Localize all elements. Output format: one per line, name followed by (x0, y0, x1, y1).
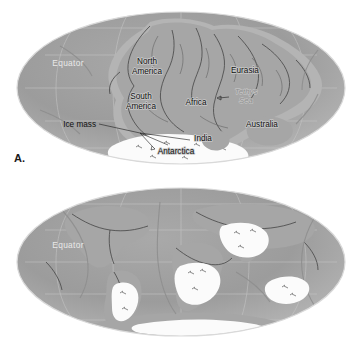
equator-label-b: Equator (52, 240, 83, 250)
label-tethys-sea-line1: Tethys (235, 87, 258, 96)
figure-container: Equator North America South America Afri… (0, 0, 362, 352)
panel-a-map: Equator North America South America Afri… (0, 0, 362, 176)
panel-b-modern: Equator B. (0, 176, 362, 352)
label-south-america-line2: America (126, 102, 156, 111)
panel-a-letter: A. (14, 152, 25, 164)
label-ice-mass: Ice mass (63, 120, 96, 129)
label-south-america-line1: South (130, 92, 152, 101)
label-india: India (194, 134, 212, 143)
label-antarctica: Antarctica (158, 147, 195, 156)
equator-label-a: Equator (52, 58, 83, 68)
label-north-america-line2: America (132, 67, 162, 76)
label-africa: Africa (186, 98, 207, 107)
label-australia: Australia (246, 120, 278, 129)
label-north-america-line1: North (137, 57, 157, 66)
label-eurasia: Eurasia (231, 66, 259, 75)
label-tethys-sea-line2: Sea (239, 96, 254, 105)
panel-b-map: Equator (0, 176, 362, 352)
panel-a-pangaea: Equator North America South America Afri… (0, 0, 362, 176)
